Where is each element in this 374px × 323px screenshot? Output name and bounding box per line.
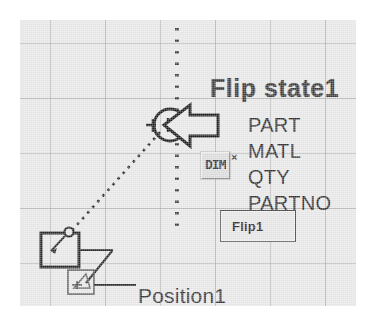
anchor-handle-circle-icon[interactable] [65, 228, 74, 237]
page-title: Flip state1 [210, 76, 339, 101]
attribute-matl: MATL [248, 141, 301, 161]
flip1-button-label: Flip1 [232, 219, 263, 234]
attribute-qty: QTY [248, 167, 290, 187]
screenshot-root: Flip state1 PART MATL QTY PARTNO Flip1 P… [0, 0, 374, 323]
anchor-square-icon[interactable] [41, 233, 79, 267]
position-marker-icon[interactable] [68, 270, 94, 294]
anchor-to-cursor-dotted-line [67, 130, 162, 236]
dimension-tool-button[interactable]: DIM [201, 152, 230, 179]
flip1-button[interactable]: Flip1 [220, 210, 296, 242]
vector-graphics-layer [20, 20, 356, 306]
close-icon[interactable]: × [231, 151, 237, 163]
drawing-canvas[interactable]: Flip state1 PART MATL QTY PARTNO Flip1 P… [20, 20, 356, 306]
anchor-to-position-connector [79, 250, 112, 283]
dimension-icon: DIM [205, 157, 226, 173]
attribute-part: PART [248, 115, 301, 135]
position1-label: Position1 [138, 285, 226, 306]
anchor-inner-arrow-icon [51, 236, 65, 251]
